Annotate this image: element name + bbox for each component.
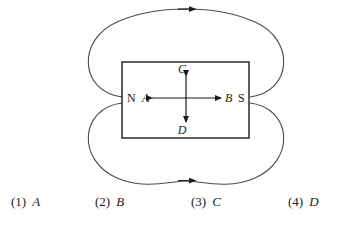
- direction-label-d: D: [177, 123, 187, 137]
- answer-option-4-value: D: [309, 194, 318, 209]
- south-pole-label: S: [238, 91, 245, 105]
- answer-option-1[interactable]: (1)A: [11, 193, 40, 211]
- magnetic-field-diagram: N S A B C D: [0, 0, 344, 190]
- direction-label-a: A: [141, 91, 150, 105]
- answer-option-4[interactable]: (4)D: [288, 193, 319, 211]
- north-pole-label: N: [127, 91, 136, 105]
- answer-option-4-number: (4): [288, 194, 303, 209]
- answer-options: (1)A (2)B (3)C (4)D: [0, 193, 344, 228]
- answer-option-2-value: B: [116, 194, 124, 209]
- answer-option-1-number: (1): [11, 194, 26, 209]
- direction-label-b: B: [225, 91, 233, 105]
- answer-option-2[interactable]: (2)B: [95, 193, 124, 211]
- answer-option-3[interactable]: (3)C: [191, 193, 221, 211]
- answer-option-3-value: C: [212, 194, 221, 209]
- answer-option-1-value: A: [32, 194, 40, 209]
- direction-label-c: C: [178, 62, 187, 76]
- answer-option-3-number: (3): [191, 194, 206, 209]
- answer-option-2-number: (2): [95, 194, 110, 209]
